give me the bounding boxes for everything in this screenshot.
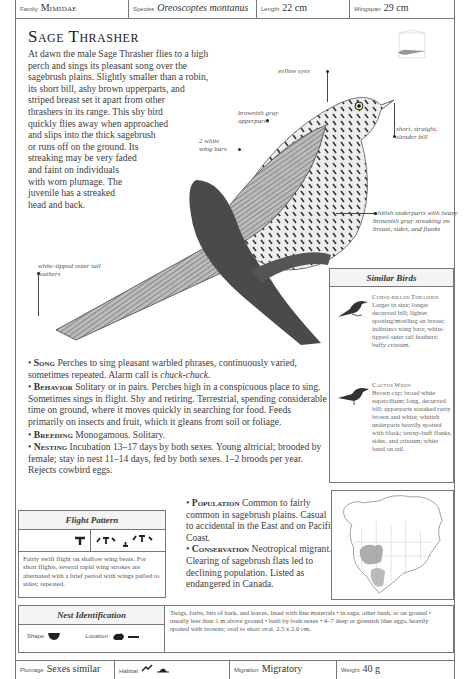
header-bar: Family Mimidae Species Oreoscoptes monta… bbox=[16, 0, 454, 19]
nesting-label: Nesting bbox=[34, 441, 67, 452]
similar-bird-desc: Brown cap; broad white supercilium; long… bbox=[372, 389, 452, 453]
plumage-label: Plumage bbox=[20, 667, 44, 673]
intro-line: At dawn the male Sage Thrasher flies to … bbox=[28, 48, 293, 60]
similar-birds-title: Similar Birds bbox=[330, 269, 453, 287]
flight-pattern-desc: Fairly swift flight on shallow wing beat… bbox=[19, 552, 165, 591]
wingspan-cell: Wingspan 29 cm bbox=[350, 0, 454, 18]
similar-bird-name: Curve-billed Thrasher bbox=[372, 293, 452, 301]
family-label: Family bbox=[20, 6, 38, 12]
flight-flap-icon bbox=[91, 530, 165, 551]
species-label: Species bbox=[133, 6, 154, 12]
callout-dot bbox=[266, 119, 269, 122]
breeding-section: • Breeding Monogamous. Solitary. bbox=[28, 429, 328, 441]
callout-dot bbox=[374, 212, 377, 215]
weight-value: 40 g bbox=[363, 663, 381, 674]
behavior-label: Behavior bbox=[34, 381, 73, 392]
callout-wing-bars: 2 white wing bars bbox=[199, 137, 234, 153]
song-label: Song bbox=[34, 357, 55, 368]
plumage-cell: Plumage Sexes similar bbox=[16, 661, 115, 679]
habitat-cell: Habitat bbox=[115, 661, 230, 679]
species-value: Oreoscoptes montanus bbox=[157, 2, 248, 13]
nest-shape-label: Shape bbox=[27, 633, 44, 639]
callout-upperparts: brownish gray upperparts bbox=[238, 109, 293, 125]
range-thumbnail-icon bbox=[396, 30, 428, 60]
weight-label: Weight bbox=[341, 667, 360, 673]
callout-line bbox=[394, 103, 395, 135]
nest-identification-panel: Nest Identification Shape Location Twigs… bbox=[18, 605, 454, 653]
similar-birds-panel: Similar Birds Curve-billed Thrasher Larg… bbox=[329, 268, 454, 483]
habitat-label: Habitat bbox=[119, 668, 138, 674]
population-label: Population bbox=[192, 497, 240, 508]
flight-glide-icon bbox=[19, 530, 91, 551]
callout-dot bbox=[238, 148, 241, 151]
song-section: • Song Perches to sing pleasant warbled … bbox=[28, 357, 328, 380]
breeding-text: Monogamous. Solitary. bbox=[75, 429, 165, 440]
callout-line bbox=[327, 72, 328, 102]
similar-bird-item: Curve-billed Thrasher Larger in size; lo… bbox=[372, 293, 452, 349]
wingspan-value: 29 cm bbox=[384, 2, 409, 13]
migration-cell: Migration Migratory bbox=[230, 661, 337, 679]
nesting-text: Incubation 13–17 days by both sexes. You… bbox=[28, 441, 321, 475]
flight-pattern-icons bbox=[19, 530, 165, 552]
nest-identification-title: Nest Identification bbox=[19, 606, 164, 625]
length-value: 22 cm bbox=[282, 2, 307, 13]
similar-bird-desc: Larger in size; longer decurved bill; li… bbox=[372, 301, 452, 349]
species-details: • Song Perches to sing pleasant warbled … bbox=[28, 357, 328, 477]
species-cell: Species Oreoscoptes montanus bbox=[129, 0, 257, 18]
nest-description: Twigs, forbs, bits of bark, and leaves, … bbox=[165, 606, 453, 652]
similar-bird-item: Cactus Wren Brown cap; broad white super… bbox=[372, 381, 452, 453]
population-section: • Population Common to fairly common in … bbox=[186, 497, 336, 543]
length-cell: Length 22 cm bbox=[257, 0, 350, 18]
callout-line bbox=[336, 213, 374, 214]
conservation-label: Conservation bbox=[192, 543, 249, 554]
migration-value: Migratory bbox=[262, 663, 303, 674]
family-cell: Family Mimidae bbox=[16, 0, 129, 18]
callout-bill: short, straight, slender bill bbox=[396, 125, 456, 141]
flight-pattern-title: Flight Pattern bbox=[19, 511, 165, 530]
page-title: Sage Thrasher bbox=[28, 27, 139, 47]
behavior-section: • Behavior Solitary or in pairs. Perches… bbox=[28, 381, 328, 427]
callout-yellow-eyes: yellow eyes bbox=[278, 67, 310, 75]
plumage-value: Sexes similar bbox=[47, 663, 101, 674]
breeding-label: Breeding bbox=[34, 429, 73, 440]
intro-line: perch and sings its pleasant song over t… bbox=[28, 60, 293, 72]
flight-pattern-panel: Flight Pattern Fairly swift flight on sh… bbox=[18, 510, 166, 598]
similar-bird-name: Cactus Wren bbox=[372, 381, 452, 389]
length-label: Length bbox=[261, 6, 279, 12]
callout-line bbox=[38, 274, 39, 316]
nesting-section: • Nesting Incubation 13–17 days by both … bbox=[28, 441, 328, 476]
wingspan-label: Wingspan bbox=[354, 6, 381, 12]
conservation-section: • Conservation Neotropical migrant. Clea… bbox=[186, 543, 336, 589]
callout-tail: white-tipped outer tail feathers bbox=[38, 262, 113, 278]
migration-label: Migration bbox=[234, 667, 259, 673]
weight-cell: Weight 40 g bbox=[337, 661, 454, 679]
cup-nest-icon bbox=[47, 631, 61, 641]
intro-line: sagebrush plains. Slightly smaller than … bbox=[28, 71, 293, 83]
range-map bbox=[331, 490, 454, 600]
family-value: Mimidae bbox=[41, 2, 77, 13]
field-guide-page: Family Mimidae Species Oreoscoptes monta… bbox=[15, 0, 455, 679]
callout-dot bbox=[393, 135, 396, 138]
shrub-ground-icon bbox=[111, 631, 141, 641]
habitat-icons bbox=[141, 663, 171, 673]
footer-bar: Plumage Sexes similar Habitat Migration … bbox=[16, 660, 454, 679]
callout-underparts: whitish underparts with heavy brownish g… bbox=[373, 209, 458, 233]
nest-location-label: Location bbox=[85, 633, 108, 639]
population-conservation: • Population Common to fairly common in … bbox=[186, 497, 336, 590]
curve-billed-thrasher-icon bbox=[336, 297, 370, 319]
song-call: chuck-chuck. bbox=[160, 369, 210, 380]
cactus-wren-icon bbox=[336, 384, 370, 406]
behavior-text: Solitary or in pairs. Perches high in a … bbox=[28, 381, 327, 427]
